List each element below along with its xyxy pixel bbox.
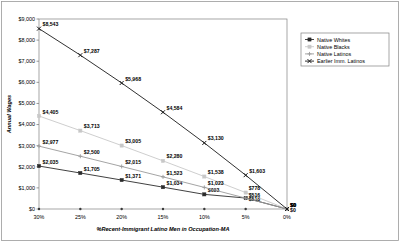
y-tick-label: $4,000 <box>19 121 36 127</box>
data-point-marker <box>161 110 165 114</box>
data-point-marker <box>37 114 40 117</box>
legend-item-label: Native Whites <box>317 37 351 43</box>
wages-line-chart: $0$1,000$2,000$3,000$4,000$5,000$6,000$7… <box>0 0 400 242</box>
data-point-marker <box>161 186 164 189</box>
data-point-label: $2,500 <box>84 149 100 155</box>
data-point-marker <box>202 185 206 189</box>
data-point-label: $4,405 <box>43 109 59 115</box>
data-point-marker <box>203 175 206 178</box>
legend-item-label: Native Latinos <box>317 51 351 57</box>
data-point-marker <box>120 81 124 85</box>
data-point-label: $1,023 <box>208 180 224 186</box>
data-point-marker <box>120 164 124 168</box>
y-axis: $0$1,000$2,000$3,000$4,000$5,000$6,000$7… <box>19 16 40 212</box>
data-point-marker <box>79 129 82 132</box>
data-point-marker <box>161 175 165 179</box>
legend: Native WhitesNative BlacksNative Latinos… <box>301 33 389 66</box>
y-axis-title: Annual Wages <box>6 95 12 134</box>
x-tick-label: 25% <box>75 214 86 220</box>
series-line <box>39 29 287 209</box>
y-tick-label: $0 <box>29 206 35 212</box>
y-tick-label: $2,000 <box>19 164 36 170</box>
x-tick-label: 30% <box>34 214 45 220</box>
data-point-label: $5,968 <box>125 76 141 82</box>
data-point-label: $1,603 <box>249 168 265 174</box>
data-point-label: $2,977 <box>43 139 59 145</box>
x-tick-marker <box>79 208 81 210</box>
legend-item-label: Earlier Imm. Latinos <box>317 58 365 64</box>
y-tick-label: $5,000 <box>19 100 36 106</box>
y-tick-label: $9,000 <box>19 16 36 22</box>
data-point-label: $8,543 <box>43 21 59 27</box>
data-point-label: $0 <box>291 202 297 208</box>
x-tick-marker <box>120 208 122 210</box>
data-point-label: $3,130 <box>208 135 224 141</box>
data-point-marker <box>308 45 311 48</box>
x-tick-marker <box>38 208 40 210</box>
data-point-label: $3,005 <box>125 138 141 144</box>
data-point-marker <box>120 144 123 147</box>
data-point-label: $7,287 <box>84 48 100 54</box>
x-tick-label: 0% <box>283 214 291 220</box>
x-tick-marker <box>244 208 246 210</box>
data-point-marker <box>161 159 164 162</box>
chart-container: $0$1,000$2,000$3,000$4,000$5,000$6,000$7… <box>0 0 400 242</box>
data-point-marker <box>78 53 82 57</box>
x-tick-label: 20% <box>116 214 127 220</box>
data-point-marker <box>203 193 206 196</box>
y-tick-label: $1,000 <box>19 185 36 191</box>
plot-area-border <box>39 19 287 209</box>
data-point-marker <box>202 141 206 145</box>
x-tick-label: 15% <box>158 214 169 220</box>
data-point-label: $2,015 <box>125 159 141 165</box>
data-point-label: $2,035 <box>43 159 59 165</box>
x-tick-label: 10% <box>199 214 210 220</box>
data-point-marker <box>244 173 248 177</box>
legend-item-label: Native Blacks <box>317 44 350 50</box>
data-point-label: $1,523 <box>167 170 183 176</box>
y-tick-label: $8,000 <box>19 37 36 43</box>
data-point-marker <box>78 154 82 158</box>
data-point-marker <box>37 144 41 148</box>
y-tick-label: $7,000 <box>19 58 36 64</box>
data-point-label: $516 <box>249 192 261 198</box>
x-axis-title: %Recent-Immigrant Latino Men in Occupati… <box>96 226 229 232</box>
data-point-label: $1,538 <box>208 169 224 175</box>
x-tick-marker <box>203 208 205 210</box>
y-tick-label: $6,000 <box>19 79 36 85</box>
data-point-label: $1,705 <box>84 166 100 172</box>
data-point-label: $3,713 <box>84 123 100 129</box>
data-point-marker <box>244 191 247 194</box>
data-point-label: $2,280 <box>167 153 183 159</box>
x-tick-label: 5% <box>242 214 250 220</box>
data-point-label: $4,584 <box>167 105 183 111</box>
data-point-marker <box>308 38 311 41</box>
data-point-label: $1,371 <box>125 173 141 179</box>
data-point-label: $693 <box>208 187 220 193</box>
x-axis: 30%25%20%15%10%5%0% <box>34 208 291 220</box>
x-tick-marker <box>162 208 164 210</box>
data-point-marker <box>120 178 123 181</box>
y-tick-label: $3,000 <box>19 143 36 149</box>
data-point-marker <box>37 164 40 167</box>
data-point-marker <box>79 171 82 174</box>
